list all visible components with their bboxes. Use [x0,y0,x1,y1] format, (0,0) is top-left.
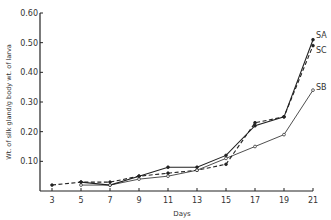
series-label-sc: SC [316,46,327,55]
y-tick-label: 0.10 [20,157,38,166]
y-tick-label: 0.30 [20,98,38,107]
series-sc-line [52,46,313,185]
y-tick-label: 0.60 [20,9,38,18]
x-tick-label: 13 [192,196,202,205]
y-tick-label: 0.50 [20,39,38,48]
x-tick-label: 11 [163,196,173,205]
line-chart: 0.100.200.300.400.500.603579111315171921… [0,0,331,220]
series-lines: SASCSB [51,31,328,187]
x-axis-label: Days [173,210,191,218]
series-sa-line [81,40,313,185]
x-tick-label: 3 [49,196,54,205]
x-tick-label: 17 [250,196,260,205]
y-axis-label: Wt. of silk gland/g body wt. of larva [5,44,13,160]
x-tick-label: 15 [221,196,231,205]
x-tick-label: 21 [308,196,318,205]
y-tick-label: 0.20 [20,128,38,137]
x-tick-label: 7 [107,196,112,205]
series-label-sa: SA [316,31,327,40]
x-tick-label: 5 [78,196,83,205]
y-tick-label: 0.40 [20,68,38,77]
x-tick-label: 9 [136,196,141,205]
series-label-sb: SB [316,83,327,92]
x-tick-label: 19 [279,196,289,205]
